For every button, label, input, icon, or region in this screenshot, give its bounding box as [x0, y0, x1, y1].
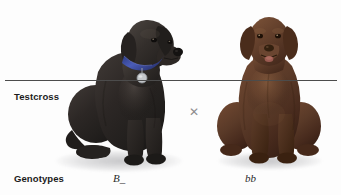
genotypes-row-label: Genotypes [14, 173, 64, 184]
cross-icon: ✕ [189, 106, 199, 118]
testcross-divider [5, 80, 337, 81]
black-labrador-photo [58, 2, 188, 170]
testcross-row-label: Testcross [14, 91, 59, 102]
testcross-figure: Testcross ✕ Genotypes B_ bb [0, 0, 341, 195]
chocolate-labrador-photo [213, 10, 325, 170]
clipped-caption-sliver [38, 0, 108, 1]
genotype-right: bb [245, 172, 256, 184]
genotype-left: B_ [113, 172, 125, 184]
